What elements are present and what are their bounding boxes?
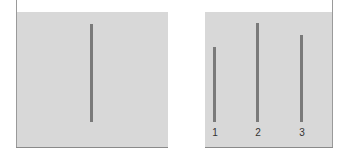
right-panel: 1 2 3 <box>205 12 332 147</box>
single-line <box>90 24 93 122</box>
line-3 <box>300 35 303 122</box>
line-1-label: 1 <box>209 128 221 138</box>
right-border <box>332 0 333 148</box>
line-2 <box>256 23 259 122</box>
line-2-label: 2 <box>252 128 264 138</box>
left-panel <box>17 12 168 147</box>
bottom-border-left <box>16 147 168 148</box>
line-1 <box>213 47 216 122</box>
bottom-border-right <box>205 147 333 148</box>
line-3-label: 3 <box>296 128 308 138</box>
